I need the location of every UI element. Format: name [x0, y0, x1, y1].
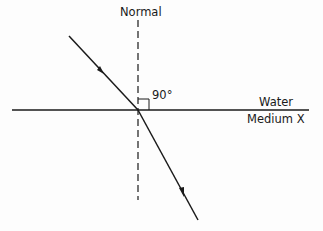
refracted-ray — [138, 110, 198, 220]
water-label: Water — [259, 95, 293, 109]
medium-x-label: Medium X — [247, 112, 305, 126]
normal-label: Normal — [120, 5, 162, 19]
right-angle-marker — [138, 99, 149, 110]
refraction-diagram: Normal 90° Water Medium X — [0, 0, 323, 231]
angle-label: 90° — [152, 88, 172, 102]
refracted-arrow-icon — [179, 187, 184, 197]
